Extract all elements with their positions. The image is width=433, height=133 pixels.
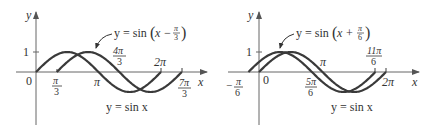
right-shifted-label-x: x + — [336, 26, 353, 40]
left-y-label: y — [25, 8, 32, 22]
left-shifted-annotation: y = sin ( x − π 3 ) — [96, 24, 186, 48]
right-one-label: 1 — [246, 45, 252, 59]
left-one-label: 1 — [23, 45, 29, 59]
right-shifted-num: π — [358, 24, 363, 33]
left-7pi3-den: 3 — [182, 88, 187, 99]
left-shifted-label-x: x − — [154, 26, 171, 40]
left-4pi3-num: 4π — [113, 45, 124, 56]
left-pi3-num: π — [53, 75, 59, 86]
left-pi-label: π — [94, 75, 101, 89]
right-11pi6-den: 6 — [371, 56, 376, 67]
right-shifted-den: 6 — [358, 33, 362, 42]
right-11pi6-num: 11π — [367, 45, 382, 56]
left-7pi3-num: 7π — [179, 77, 190, 88]
left-x-label: x — [197, 75, 204, 89]
left-pi3-den: 3 — [54, 86, 59, 97]
right-x-label: x — [411, 75, 418, 89]
left-paren-close: ) — [181, 24, 186, 42]
right-zero-label: 0 — [263, 73, 269, 87]
right-shifted-annotation: y = sin ( x + π 6 ) — [280, 24, 370, 48]
right-neg-sign: − — [226, 79, 232, 91]
right-pi-label: π — [320, 55, 327, 69]
right-y-label: y — [247, 8, 254, 22]
left-zero-label: 0 — [26, 74, 32, 88]
left-chart: y x 1 0 π 3 π 4π 3 2π 7π 3 y = sin ( x −… — [16, 8, 207, 125]
right-5pi6-den: 6 — [308, 87, 313, 98]
right-neg-pi6-den: 6 — [235, 87, 240, 98]
right-annotation-arrow — [280, 34, 294, 48]
right-chart: y x 1 0 − π 6 5π 6 π 11π 6 2π y = sin ( … — [226, 8, 419, 125]
left-shifted-num: π — [174, 24, 179, 33]
left-4pi3-den: 3 — [117, 56, 122, 67]
right-shifted-label-pre: y = sin — [296, 26, 329, 40]
right-2pi-label: 2π — [382, 75, 395, 89]
left-shifted-label-pre: y = sin — [114, 26, 147, 40]
left-2pi-label: 2π — [154, 55, 167, 69]
left-base-label: y = sin x — [106, 100, 148, 114]
right-neg-pi6-num: π — [236, 76, 242, 87]
figure: y x 1 0 π 3 π 4π 3 2π 7π 3 y = sin ( x −… — [0, 0, 433, 133]
right-5pi6-num: 5π — [306, 76, 317, 87]
left-annotation-arrow — [96, 34, 112, 48]
right-base-label: y = sin x — [331, 100, 373, 114]
left-shifted-den: 3 — [174, 33, 178, 42]
right-paren-close: ) — [365, 24, 370, 42]
